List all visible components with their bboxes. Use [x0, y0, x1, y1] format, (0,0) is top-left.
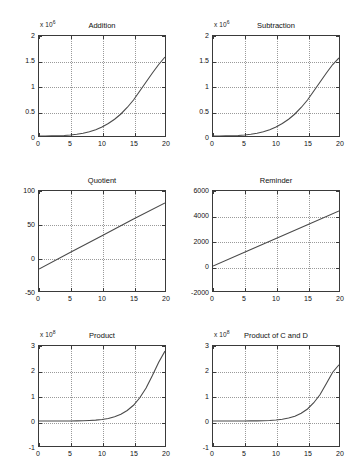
data-series-line: [39, 36, 165, 136]
series-path: [213, 365, 339, 421]
plot-area: [212, 35, 340, 137]
y-axis-tick-label: 1: [1, 393, 35, 400]
x-axis-tick-label: 5: [235, 450, 253, 457]
series-path: [213, 58, 339, 136]
x-axis-tick-label: 20: [331, 140, 349, 147]
x-axis-tick-label: 0: [29, 295, 47, 302]
x-axis-tick-label: 15: [299, 295, 317, 302]
subplot-title: Quotient: [38, 177, 166, 185]
subplot-title: Product: [38, 332, 166, 340]
x-axis-tick-label: 15: [299, 140, 317, 147]
matlab-figure-canvas: x 106Addition00.511.5205101520x 106Subtr…: [0, 0, 354, 469]
x-axis-tick-label: 5: [61, 140, 79, 147]
x-axis-tick-label: 0: [203, 140, 221, 147]
y-axis-tick-label: 2000: [175, 238, 209, 245]
x-axis-tick-label: 10: [93, 450, 111, 457]
x-axis-tick-label: 5: [235, 140, 253, 147]
y-axis-tick-label: 2: [1, 367, 35, 374]
x-axis-tick-label: 5: [61, 450, 79, 457]
series-path: [39, 351, 165, 421]
x-axis-tick-label: 20: [331, 450, 349, 457]
y-axis-tick-label: 1: [175, 393, 209, 400]
y-axis-tick-label: 3: [175, 342, 209, 349]
y-axis-tick-label: 4000: [175, 212, 209, 219]
x-axis-tick-label: 20: [157, 295, 175, 302]
x-axis-tick-label: 10: [267, 140, 285, 147]
subplot-title: Subtraction: [212, 22, 340, 30]
subplot-title: Addition: [38, 22, 166, 30]
plot-area: [38, 190, 166, 292]
x-axis-tick-label: 15: [125, 140, 143, 147]
y-axis-tick-label: 2: [175, 32, 209, 39]
x-axis-tick-label: 10: [267, 450, 285, 457]
x-axis-tick-label: 20: [157, 450, 175, 457]
data-series-line: [213, 36, 339, 136]
x-axis-tick-label: 0: [29, 450, 47, 457]
y-axis-tick-label: 0: [1, 418, 35, 425]
y-axis-tick-label: 50: [1, 221, 35, 228]
y-axis-tick-label: 0: [1, 255, 35, 262]
x-axis-tick-label: 10: [93, 295, 111, 302]
data-series-line: [39, 346, 165, 446]
x-axis-tick-label: 0: [203, 295, 221, 302]
x-axis-tick-label: 0: [29, 140, 47, 147]
y-axis-tick-label: 0: [175, 263, 209, 270]
x-axis-tick-label: 10: [267, 295, 285, 302]
y-axis-tick-label: 0: [175, 418, 209, 425]
x-axis-tick-label: 20: [331, 295, 349, 302]
y-axis-tick-label: 0.5: [175, 108, 209, 115]
x-axis-tick-label: 15: [125, 295, 143, 302]
series-path: [39, 57, 165, 136]
y-axis-tick-label: 2: [175, 367, 209, 374]
x-axis-tick-label: 5: [61, 295, 79, 302]
plot-area: [212, 190, 340, 292]
x-axis-tick-label: 5: [235, 295, 253, 302]
plot-area: [38, 345, 166, 447]
series-path: [213, 211, 339, 266]
y-axis-tick-label: 6000: [175, 187, 209, 194]
subplot-title: Reminder: [212, 177, 340, 185]
y-axis-tick-label: 100: [1, 187, 35, 194]
data-series-line: [39, 191, 165, 291]
y-axis-tick-label: 1: [1, 83, 35, 90]
series-path: [39, 203, 165, 269]
plot-area: [38, 35, 166, 137]
y-axis-tick-label: 0.5: [1, 108, 35, 115]
plot-area: [212, 345, 340, 447]
y-axis-tick-label: 3: [1, 342, 35, 349]
y-axis-tick-label: 1.5: [1, 57, 35, 64]
data-series-line: [213, 191, 339, 291]
x-axis-tick-label: 15: [125, 450, 143, 457]
y-axis-tick-label: 1: [175, 83, 209, 90]
x-axis-tick-label: 0: [203, 450, 221, 457]
y-axis-tick-label: 2: [1, 32, 35, 39]
y-axis-tick-label: 1.5: [175, 57, 209, 64]
x-axis-tick-label: 20: [157, 140, 175, 147]
subplot-title: Product of C and D: [212, 332, 340, 340]
data-series-line: [213, 346, 339, 446]
x-axis-tick-label: 10: [93, 140, 111, 147]
x-axis-tick-label: 15: [299, 450, 317, 457]
